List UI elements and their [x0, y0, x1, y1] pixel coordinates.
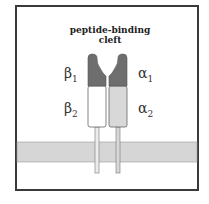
alpha-transmembrane-stem — [116, 127, 120, 173]
alpha2-label: α2 — [138, 100, 153, 119]
beta1-label: β1 — [64, 65, 78, 84]
alpha2-domain — [109, 86, 127, 127]
beta-transmembrane-stem — [95, 127, 99, 173]
alpha1-label: α1 — [138, 65, 153, 84]
cell-membrane — [17, 142, 197, 162]
mhc-class-ii-diagram — [0, 0, 209, 204]
beta2-label: β2 — [64, 100, 78, 119]
beta2-domain — [88, 86, 106, 127]
beta1-domain — [88, 54, 106, 86]
alpha1-domain — [109, 54, 127, 86]
